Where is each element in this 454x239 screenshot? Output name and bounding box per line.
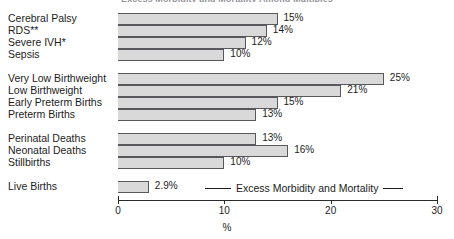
- bar-row: 16%: [118, 145, 437, 157]
- category-label: Live Births: [8, 180, 57, 192]
- bar: [118, 49, 224, 61]
- bar: [118, 157, 224, 169]
- category-label: Stillbirths: [8, 156, 51, 168]
- x-axis-tick-label: 30: [431, 205, 442, 216]
- bar-value-label: 10%: [230, 156, 250, 168]
- bar-row: 10%: [118, 49, 437, 61]
- bar-value-label: 15%: [284, 12, 304, 24]
- bar-value-label: 2.9%: [155, 180, 178, 192]
- legend-label: Excess Morbidity and Mortality: [236, 183, 378, 194]
- bar-value-label: 16%: [294, 144, 314, 156]
- bar-value-label: 13%: [262, 108, 282, 120]
- bar-value-label: 12%: [252, 36, 272, 48]
- category-label: Very Low Birthweight: [8, 72, 106, 84]
- bar: [118, 133, 256, 145]
- x-axis-tick-label: 10: [219, 205, 230, 216]
- x-axis-title: %: [0, 222, 454, 233]
- bar: [118, 97, 278, 109]
- category-label: Neonatal Deaths: [8, 144, 86, 156]
- bar-value-label: 13%: [262, 132, 282, 144]
- bar-value-label: 15%: [284, 96, 304, 108]
- x-axis-tick-label: 20: [325, 205, 336, 216]
- legend-rule-left-icon: [205, 188, 231, 189]
- bar-row: 25%: [118, 73, 437, 85]
- legend: Excess Morbidity and Mortality: [205, 183, 403, 194]
- category-label: Cerebral Palsy: [8, 12, 77, 24]
- category-label: Sepsis: [8, 48, 40, 60]
- bar: [118, 73, 384, 85]
- bar: [118, 85, 341, 97]
- bar: [118, 25, 267, 37]
- bar: [118, 13, 278, 25]
- chart-container: Excess Morbidity and Mortality Among Mul…: [0, 0, 454, 239]
- category-label: Preterm Births: [8, 108, 75, 120]
- category-label: Low Birthweight: [8, 84, 82, 96]
- chart-title: Excess Morbidity and Mortality Among Mul…: [0, 0, 454, 2]
- bar-value-label: 21%: [347, 84, 367, 96]
- bar-row: 21%: [118, 85, 437, 97]
- category-label: Early Preterm Births: [8, 96, 102, 108]
- bar-row: 12%: [118, 37, 437, 49]
- legend-rule-right-icon: [383, 188, 403, 189]
- bar: [118, 37, 246, 49]
- category-label: Perinatal Deaths: [8, 132, 86, 144]
- bar-row: 13%: [118, 109, 437, 121]
- category-label: RDS**: [8, 24, 38, 36]
- x-axis-tick: [331, 200, 332, 204]
- bar-value-label: 14%: [273, 24, 293, 36]
- bar-value-label: 10%: [230, 48, 250, 60]
- bar-row: 13%: [118, 133, 437, 145]
- bar: [118, 109, 256, 121]
- category-label: Severe IVH*: [8, 36, 66, 48]
- bar-value-label: 25%: [390, 72, 410, 84]
- x-axis-tick: [224, 200, 225, 204]
- bar-row: 10%: [118, 157, 437, 169]
- x-axis-line: [118, 200, 437, 201]
- x-axis-end-cap: [118, 196, 119, 201]
- x-axis-end-cap: [437, 196, 438, 201]
- bar: [118, 181, 149, 193]
- x-axis-tick-label: 0: [115, 205, 121, 216]
- bar-row: 14%: [118, 25, 437, 37]
- plot-area: 15%14%12%10%25%21%15%13%13%16%10%2.9%: [118, 13, 437, 200]
- bar: [118, 145, 288, 157]
